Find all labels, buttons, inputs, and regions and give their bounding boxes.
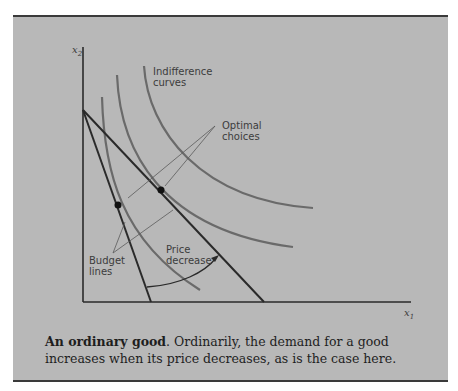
- optimal-point-new: [158, 187, 165, 194]
- budget-lines-label-2: lines: [89, 266, 112, 277]
- x-axis-label: x1: [404, 307, 414, 321]
- optimal-choices-label-1: Optimal: [222, 120, 262, 131]
- caption-title: An ordinary good: [45, 334, 166, 349]
- budget-lines-label-1: Budget: [89, 255, 125, 266]
- price-decrease-label-1: Price: [166, 244, 190, 255]
- optimal-point-original: [115, 202, 122, 209]
- indifference-curves-label-2: curves: [153, 77, 186, 88]
- arrowhead-icon: [211, 255, 219, 262]
- leader-optimal-2: [165, 126, 215, 186]
- optimal-choices-label-2: choices: [222, 131, 260, 142]
- y-axis-label: x2: [72, 44, 83, 58]
- figure-caption: An ordinary good. Ordinarily, the demand…: [45, 333, 425, 367]
- indifference-curves-label-1: Indifference: [153, 66, 213, 77]
- indifference-curve-2: [117, 75, 293, 247]
- leader-budget-2: [113, 210, 173, 253]
- price-decrease-label-2: decrease: [166, 255, 212, 266]
